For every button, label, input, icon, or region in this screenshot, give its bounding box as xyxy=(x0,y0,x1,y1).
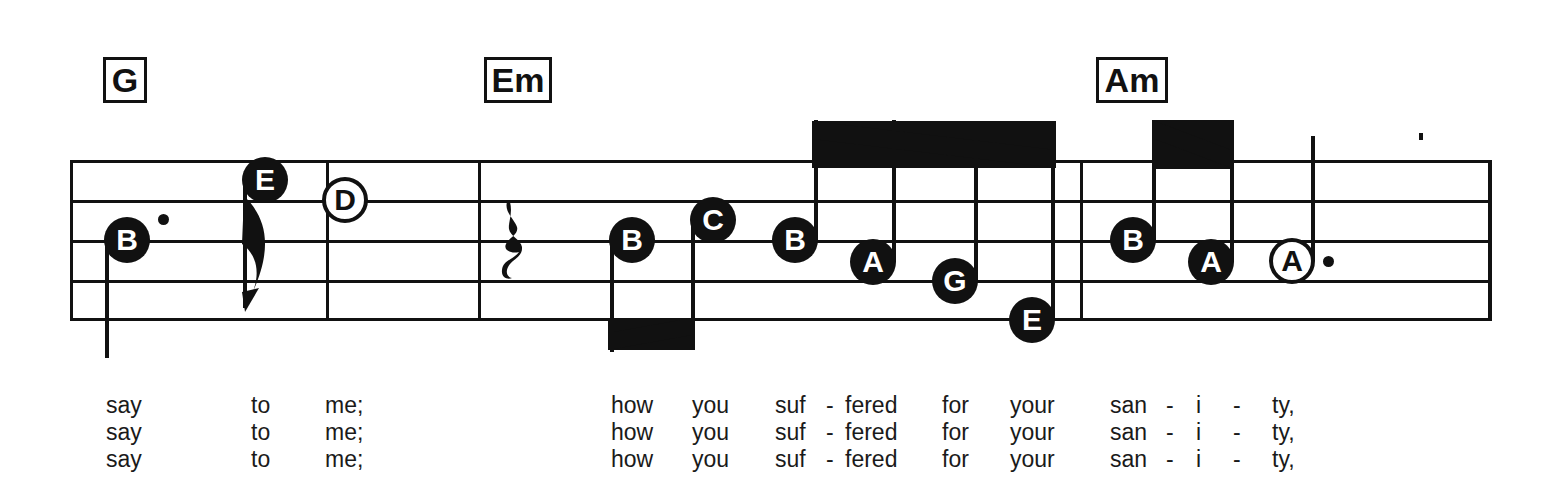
note-head-e[interactable]: E xyxy=(242,157,288,203)
lyric-syllable: for xyxy=(942,392,969,419)
lyric-syllable: suf xyxy=(775,419,806,446)
note-head-a[interactable]: A xyxy=(1269,238,1315,284)
note-letter: D xyxy=(334,185,356,215)
note-letter: A xyxy=(862,247,884,277)
note-stem xyxy=(1311,136,1315,261)
lyric-syllable: san xyxy=(1110,392,1147,419)
note-stem xyxy=(610,240,614,352)
barline-3 xyxy=(1080,160,1083,321)
note-stem xyxy=(892,120,896,262)
lyric-syllable: fered xyxy=(845,419,897,446)
lyric-syllable: me; xyxy=(325,419,363,446)
lyric-verse-1: saytome;howyousuf-feredforyoursan-i-ty, xyxy=(0,392,1550,419)
barline-2 xyxy=(478,160,481,321)
note-stem xyxy=(1152,120,1156,240)
lyric-hyphen: - xyxy=(826,392,834,419)
note-stem xyxy=(814,120,818,240)
lyric-syllable: suf xyxy=(775,446,806,473)
lyric-syllable: how xyxy=(611,446,653,473)
note-head-c[interactable]: C xyxy=(690,197,736,243)
lyric-syllable: for xyxy=(942,446,969,473)
note-stem xyxy=(105,240,109,358)
lyric-verse-3: saytome;howyousuf-feredforyoursan-i-ty, xyxy=(0,446,1550,473)
lyrics-block: saytome;howyousuf-feredforyoursan-i-ty,s… xyxy=(0,392,1550,473)
note-letter: E xyxy=(1022,305,1042,335)
lyric-syllable: how xyxy=(611,419,653,446)
chord-label: G xyxy=(112,63,138,97)
chord-label: Em xyxy=(492,63,545,97)
lyric-syllable: ty, xyxy=(1272,419,1295,446)
lyric-hyphen: - xyxy=(826,446,834,473)
note-stem xyxy=(1051,138,1055,320)
lyric-syllable: your xyxy=(1010,446,1055,473)
lyric-syllable: how xyxy=(611,392,653,419)
lyric-hyphen: - xyxy=(826,419,834,446)
lyric-syllable: to xyxy=(251,392,270,419)
note-stem xyxy=(691,220,695,350)
lyric-syllable: to xyxy=(251,419,270,446)
barline-start xyxy=(70,160,73,321)
note-head-e[interactable]: E xyxy=(1009,297,1055,343)
lyric-syllable: me; xyxy=(325,446,363,473)
lyric-syllable: san xyxy=(1110,419,1147,446)
lyric-hyphen: - xyxy=(1166,419,1174,446)
lyric-hyphen: - xyxy=(1233,446,1241,473)
note-letter: B xyxy=(1122,225,1144,255)
chord-symbol-g[interactable]: G xyxy=(103,57,147,103)
note-letter: B xyxy=(784,225,806,255)
staff-line-5 xyxy=(70,318,1490,321)
lyric-syllable: say xyxy=(106,392,142,419)
lyric-syllable: you xyxy=(692,446,729,473)
staff-line-1 xyxy=(70,160,1490,163)
chord-symbol-am[interactable]: Am xyxy=(1096,57,1168,103)
quarter-rest xyxy=(495,200,529,282)
note-letter: E xyxy=(255,165,275,195)
ink-speck xyxy=(1419,133,1423,140)
lyric-syllable: fered xyxy=(845,392,897,419)
note-letter: B xyxy=(621,225,643,255)
lyric-syllable: your xyxy=(1010,392,1055,419)
note-head-g[interactable]: G xyxy=(932,258,978,304)
note-stem xyxy=(974,129,978,281)
lyric-hyphen: - xyxy=(1233,419,1241,446)
lyric-syllable: i xyxy=(1196,419,1201,446)
sheet-music-page: GEmAm BEDBCBAGEBAA saytome;howyousuf-fer… xyxy=(0,0,1550,492)
note-letter: C xyxy=(702,205,724,235)
lyric-syllable: i xyxy=(1196,446,1201,473)
lyric-hyphen: - xyxy=(1166,392,1174,419)
note-stem xyxy=(1230,120,1234,262)
lyric-verse-2: saytome;howyousuf-feredforyoursan-i-ty, xyxy=(0,419,1550,446)
lyric-syllable: me; xyxy=(325,392,363,419)
lyric-syllable: for xyxy=(942,419,969,446)
note-head-b[interactable]: B xyxy=(609,217,655,263)
note-letter: A xyxy=(1281,246,1303,276)
lyric-syllable: i xyxy=(1196,392,1201,419)
lyric-syllable: you xyxy=(692,392,729,419)
lyric-syllable: suf xyxy=(775,392,806,419)
lyric-hyphen: - xyxy=(1233,392,1241,419)
chord-symbol-em[interactable]: Em xyxy=(484,57,552,103)
note-head-d[interactable]: D xyxy=(322,177,368,223)
note-letter: B xyxy=(116,225,138,255)
lyric-syllable: fered xyxy=(845,446,897,473)
lyric-syllable: ty, xyxy=(1272,446,1295,473)
augmentation-dot xyxy=(158,214,169,225)
lyric-hyphen: - xyxy=(1166,446,1174,473)
lyric-syllable: your xyxy=(1010,419,1055,446)
lyric-syllable: you xyxy=(692,419,729,446)
lyric-syllable: san xyxy=(1110,446,1147,473)
note-letter: A xyxy=(1200,247,1222,277)
eighth-flag xyxy=(239,194,285,318)
note-letter: G xyxy=(943,266,966,296)
note-head-a[interactable]: A xyxy=(1188,239,1234,285)
note-head-a[interactable]: A xyxy=(850,239,896,285)
augmentation-dot xyxy=(1323,256,1334,267)
beam-1 xyxy=(608,318,692,350)
note-head-b[interactable]: B xyxy=(772,217,818,263)
lyric-syllable: ty, xyxy=(1272,392,1295,419)
chord-label: Am xyxy=(1105,63,1160,97)
beam-2 xyxy=(812,121,1056,168)
beam-3 xyxy=(1152,120,1234,169)
note-head-b[interactable]: B xyxy=(104,217,150,263)
note-head-b[interactable]: B xyxy=(1110,217,1156,263)
